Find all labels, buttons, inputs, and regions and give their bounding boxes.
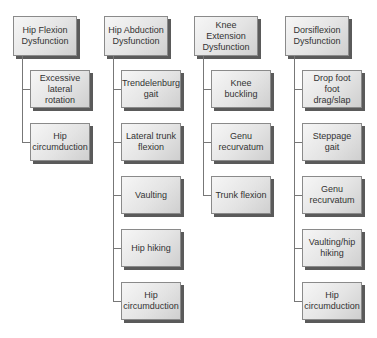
child-node: Trunk flexion	[211, 176, 271, 214]
child-node: Hip hiking	[121, 229, 181, 267]
child-node: Genu recurvatum	[302, 176, 362, 214]
child-node: Vaulting	[121, 176, 181, 214]
child-node: Hip circumduction	[121, 282, 181, 320]
child-node: Excessive lateral rotation	[30, 70, 90, 108]
connector-line	[113, 56, 114, 301]
root-node: Hip Flexion Dysfunction	[13, 16, 77, 56]
connector-line	[203, 56, 204, 195]
child-node: Steppage gait	[302, 123, 362, 161]
child-node: Knee buckling	[211, 70, 271, 108]
child-node: Genu recurvatum	[211, 123, 271, 161]
child-node: Vaulting/hip hiking	[302, 229, 362, 267]
child-node: Drop foot foot drag/slap	[302, 70, 362, 108]
root-node: Knee Extension Dysfunction	[194, 16, 258, 56]
root-node: Dorsiflexion Dysfunction	[285, 16, 349, 56]
connector-line	[294, 56, 295, 301]
child-node: Lateral trunk flexion	[121, 123, 181, 161]
child-node: Hip circumduction	[302, 282, 362, 320]
child-node: Trendelenburg gait	[121, 70, 181, 108]
connector-line	[22, 56, 23, 142]
root-node: Hip Abduction Dysfunction	[104, 16, 168, 56]
child-node: Hip circumduction	[30, 123, 90, 161]
